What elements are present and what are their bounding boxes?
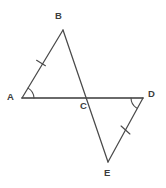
angle-arc-A — [28, 88, 34, 98]
vertex-label-a: A — [7, 92, 14, 102]
geometry-canvas — [0, 0, 166, 188]
angle-arc-D — [131, 98, 137, 108]
vertex-label-c: C — [80, 101, 87, 111]
vertex-label-b: B — [55, 11, 62, 21]
vertex-label-e: E — [104, 168, 110, 178]
tick-mark-DE — [121, 126, 130, 134]
segment-BE — [63, 30, 108, 162]
vertex-label-d: D — [148, 89, 155, 99]
geometry-figure: A B C D E — [0, 0, 166, 188]
